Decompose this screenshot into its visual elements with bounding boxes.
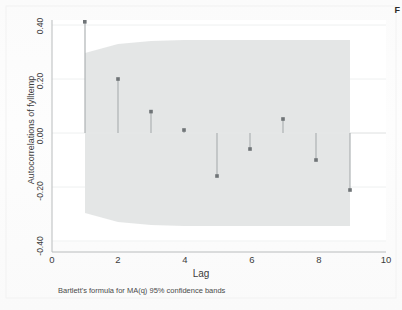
marker-lag-5 bbox=[215, 174, 219, 178]
marker-lag-1 bbox=[83, 20, 87, 24]
x-tick-label-0: 0 bbox=[49, 254, 54, 265]
marker-lag-9 bbox=[348, 188, 352, 192]
marker-lag-2 bbox=[116, 77, 120, 81]
x-tick-label-10: 10 bbox=[381, 254, 392, 265]
marker-lag-3 bbox=[149, 110, 153, 114]
marker-lag-7 bbox=[281, 117, 285, 121]
x-tick-label-6: 6 bbox=[249, 254, 254, 265]
marker-lag-8 bbox=[314, 158, 318, 162]
marker-lag-4 bbox=[182, 128, 186, 132]
marker-lag-6 bbox=[248, 147, 252, 151]
x-tick-label-8: 8 bbox=[316, 254, 321, 265]
x-tick-label-2: 2 bbox=[115, 254, 120, 265]
plot-canvas bbox=[0, 0, 402, 310]
correlogram-figure: Autocorrelations of fylltemp 0.40 0.20 0… bbox=[0, 0, 402, 310]
chart-caption: Bartlett's formula for MA(q) 95% confide… bbox=[58, 286, 225, 295]
page-corner-mark: F bbox=[395, 5, 401, 15]
x-tick-label-4: 4 bbox=[182, 254, 187, 265]
x-axis-title: Lag bbox=[193, 268, 210, 279]
